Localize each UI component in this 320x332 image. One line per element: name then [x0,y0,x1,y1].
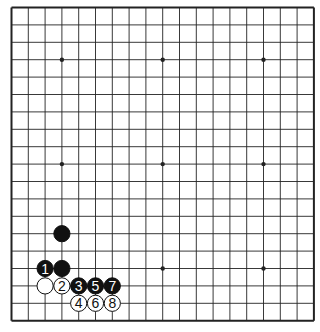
go-board[interactable]: 12345678 [0,0,320,332]
move-number: 5 [92,278,100,294]
black-stone[interactable] [54,226,70,242]
star-point-icon [161,58,165,62]
white-stone-6[interactable]: 6 [87,295,103,311]
move-number: 1 [41,261,49,277]
black-stone-7[interactable]: 7 [104,278,120,294]
white-stone-8[interactable]: 8 [104,295,120,311]
white-stone-4[interactable]: 4 [71,295,87,311]
white-stone[interactable] [37,278,53,294]
black-stone-icon [54,226,70,242]
move-number: 3 [75,278,83,294]
white-stone-2[interactable]: 2 [54,278,70,294]
black-stone-3[interactable]: 3 [71,278,87,294]
move-number: 7 [108,278,116,294]
black-stone-1[interactable]: 1 [37,260,53,276]
black-stone-icon [54,260,70,276]
star-point-icon [261,58,265,62]
move-number: 8 [108,295,116,311]
star-point-icon [161,162,165,166]
move-number: 2 [58,278,66,294]
star-point-icon [261,266,265,270]
black-stone[interactable] [54,260,70,276]
star-point-icon [161,266,165,270]
white-stone-icon [37,278,53,294]
star-point-icon [261,162,265,166]
move-number: 6 [92,295,100,311]
star-point-icon [60,162,64,166]
black-stone-5[interactable]: 5 [87,278,103,294]
star-point-icon [60,58,64,62]
move-number: 4 [75,295,83,311]
